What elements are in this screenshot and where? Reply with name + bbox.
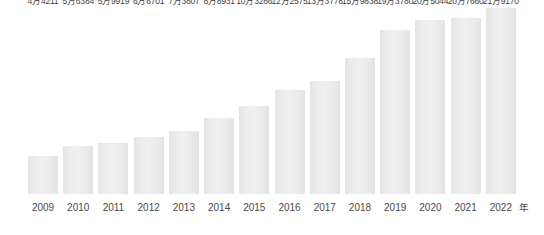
bar-value-label: 5万6384 xyxy=(63,0,94,6)
x-axis-tick: 2014 xyxy=(202,202,236,213)
bar-value-label: 19万3780 xyxy=(377,0,413,6)
bar-rect xyxy=(239,106,269,194)
x-axis-tick: 2009 xyxy=(26,202,60,213)
bar-column: 20万7660 xyxy=(449,8,483,194)
bar-rect xyxy=(451,18,481,194)
x-axis-unit-label: 年 xyxy=(519,198,529,216)
x-axis-tick: 2022 xyxy=(484,202,518,213)
bar-value-label: 8万8931 xyxy=(203,0,234,6)
bar-value-label: 4万4211 xyxy=(28,0,59,6)
bar-column: 6万6701 xyxy=(132,8,166,194)
bar-rect xyxy=(415,20,445,194)
bar-rect xyxy=(98,143,128,194)
x-axis-tick: 2015 xyxy=(237,202,271,213)
bar-column: 19万3780 xyxy=(378,8,412,194)
bar-rect xyxy=(63,146,93,194)
bar-value-label: 21万9170 xyxy=(483,0,519,6)
x-axis-tick: 2012 xyxy=(132,202,166,213)
bar-chart: 4万4211 5万6384 5万9919 6万6701 7万3807 8万893… xyxy=(0,0,544,235)
bar-value-label: 15万9838 xyxy=(342,0,378,6)
x-axis-tick: 2021 xyxy=(449,202,483,213)
bar-value-label: 13万3778 xyxy=(307,0,343,6)
bar-column: 5万9919 xyxy=(96,8,130,194)
bar-value-label: 7万3807 xyxy=(168,0,199,6)
bar-rect xyxy=(380,30,410,194)
bar-column: 4万4211 xyxy=(26,8,60,194)
bar-rect xyxy=(345,58,375,194)
bar-value-label: 6万6701 xyxy=(133,0,164,6)
bar-value-label: 20万5044 xyxy=(412,0,448,6)
bar-column: 7万3807 xyxy=(167,8,201,194)
bar-column: 21万9170 xyxy=(484,8,518,194)
x-axis-tick-labels: 2009 2010 2011 2012 2013 2014 2015 2016 … xyxy=(26,198,518,216)
bar-rect xyxy=(275,90,305,194)
x-axis-tick: 2018 xyxy=(343,202,377,213)
bar-rect xyxy=(28,156,58,194)
bar-rect xyxy=(486,8,516,194)
plot-area: 4万4211 5万6384 5万9919 6万6701 7万3807 8万893… xyxy=(26,8,518,194)
bar-value-label: 5万9919 xyxy=(98,0,129,6)
bar-column: 5万6384 xyxy=(61,8,95,194)
bar-column: 10万3286 xyxy=(237,8,271,194)
bar-value-label: 20万7660 xyxy=(448,0,484,6)
bar-value-label: 12万2575 xyxy=(272,0,308,6)
x-axis-tick: 2017 xyxy=(308,202,342,213)
x-axis-tick: 2011 xyxy=(96,202,130,213)
bar-rect xyxy=(204,118,234,194)
x-axis-tick: 2019 xyxy=(378,202,412,213)
x-axis-tick: 2013 xyxy=(167,202,201,213)
bar-rect xyxy=(169,131,199,194)
x-axis-tick: 2020 xyxy=(413,202,447,213)
bar-column: 13万3778 xyxy=(308,8,342,194)
bar-value-label: 10万3286 xyxy=(236,0,272,6)
bar-column: 15万9838 xyxy=(343,8,377,194)
bar-column: 20万5044 xyxy=(413,8,447,194)
x-axis-tick: 2016 xyxy=(273,202,307,213)
bar-column: 8万8931 xyxy=(202,8,236,194)
x-axis-tick: 2010 xyxy=(61,202,95,213)
bar-rect xyxy=(134,137,164,194)
bar-column: 12万2575 xyxy=(273,8,307,194)
bar-rect xyxy=(310,81,340,194)
